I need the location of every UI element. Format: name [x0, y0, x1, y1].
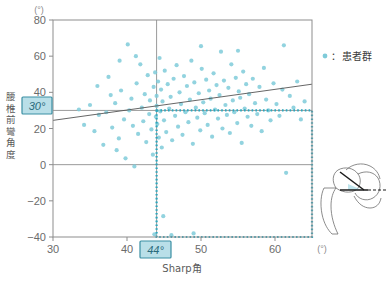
data-point — [189, 59, 193, 63]
data-point — [92, 129, 96, 133]
data-point — [204, 78, 208, 82]
data-point — [152, 85, 156, 89]
x-axis-tick-label: 30 — [47, 243, 59, 255]
data-point — [207, 88, 211, 92]
data-point — [117, 136, 121, 140]
data-point — [162, 118, 166, 122]
y-axis-tick-label: −40 — [27, 231, 46, 243]
data-point — [200, 67, 204, 71]
data-point — [180, 133, 184, 137]
data-point — [238, 96, 242, 100]
data-point — [226, 86, 230, 90]
hip-sharp-angle-diagram — [321, 164, 386, 234]
data-point — [235, 121, 239, 125]
y-axis-tick-label: 80 — [34, 14, 46, 26]
data-point — [131, 124, 135, 128]
data-point — [303, 99, 307, 103]
data-point — [151, 153, 155, 157]
data-point — [138, 62, 142, 66]
data-point — [237, 89, 241, 93]
y-axis-title-char: 前 — [6, 114, 16, 125]
x-axis-unit: (°) — [317, 244, 327, 254]
data-point — [177, 90, 181, 94]
data-point — [220, 126, 224, 130]
data-point — [160, 99, 164, 103]
data-point — [192, 231, 196, 235]
data-point — [244, 82, 248, 86]
data-point — [173, 114, 177, 118]
data-point — [143, 92, 147, 96]
data-point — [262, 66, 266, 70]
data-point — [291, 106, 295, 110]
data-point — [282, 43, 286, 47]
data-point — [170, 138, 174, 142]
femur-shaft-outline — [321, 188, 338, 234]
data-point — [284, 171, 288, 175]
data-point — [160, 145, 164, 149]
data-point — [203, 111, 207, 115]
data-point — [229, 62, 233, 66]
y-axis-title-char: 彎 — [6, 126, 16, 137]
data-point — [253, 101, 257, 105]
data-point — [172, 77, 176, 81]
data-point — [148, 98, 152, 102]
y-axis-title-char: 腰 — [6, 91, 16, 102]
x-threshold-label: 44° — [147, 244, 164, 256]
data-point — [164, 130, 168, 134]
data-point — [144, 140, 148, 144]
data-point — [195, 116, 199, 120]
data-point — [123, 156, 127, 160]
data-point — [166, 82, 170, 86]
y-axis-tick-label: 60 — [34, 50, 46, 62]
data-point — [176, 125, 180, 129]
data-point — [210, 135, 214, 139]
x-axis-tick-label: 60 — [269, 243, 281, 255]
data-point — [122, 117, 126, 121]
data-point — [104, 110, 108, 114]
data-point — [299, 117, 303, 121]
data-point — [240, 141, 244, 145]
data-point — [182, 74, 186, 78]
data-point — [231, 98, 235, 102]
data-point — [109, 93, 113, 97]
data-point — [194, 106, 198, 110]
data-point — [163, 69, 167, 73]
data-point — [191, 142, 195, 146]
y-axis-tick-label: 20 — [34, 123, 46, 135]
data-point — [132, 164, 136, 168]
data-point — [113, 101, 117, 105]
data-point — [146, 73, 150, 77]
legend-label-patient-group: 患者群 — [342, 50, 372, 62]
y-axis-title-char: 度 — [6, 149, 16, 160]
data-point — [129, 97, 133, 101]
data-point — [88, 103, 92, 107]
data-point — [156, 79, 160, 83]
data-point — [199, 44, 203, 48]
data-point — [236, 49, 240, 53]
data-point — [155, 94, 159, 98]
data-point — [198, 128, 202, 132]
data-point — [268, 118, 272, 122]
data-point — [134, 54, 138, 58]
scatter-plot: 806040200−20−4030405060 (°) (°) Sharp角 腰… — [0, 0, 387, 281]
data-point — [228, 131, 232, 135]
data-point — [222, 78, 226, 82]
y-axis-title-char: 角 — [6, 137, 16, 148]
x-axis-tick-label: 50 — [195, 243, 207, 255]
data-point — [136, 132, 140, 136]
data-point — [274, 102, 278, 106]
data-point — [186, 120, 190, 124]
y-threshold-label: 30° — [29, 100, 46, 112]
data-point — [223, 103, 227, 107]
y-axis-title: 腰椎前彎角度 — [6, 91, 16, 160]
data-point — [147, 112, 151, 116]
data-point — [249, 124, 253, 128]
data-point — [161, 214, 165, 218]
data-point — [82, 123, 86, 127]
data-point — [288, 94, 292, 98]
data-point — [153, 70, 157, 74]
data-point — [77, 107, 81, 111]
data-point — [127, 108, 131, 112]
obturator-outline — [354, 196, 381, 208]
data-point — [271, 81, 275, 85]
